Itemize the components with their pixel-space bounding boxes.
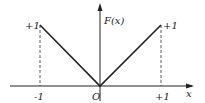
x-axis-label: x xyxy=(186,88,192,99)
y-axis-label: F(x) xyxy=(103,15,124,26)
tick-label-pos1: +1 xyxy=(155,91,170,102)
y-axis-arrow-icon xyxy=(98,3,103,11)
origin-label: O xyxy=(92,91,100,102)
right-peak-label: +1 xyxy=(163,20,178,31)
tick-label-neg1: -1 xyxy=(34,91,44,102)
chart-figure: +1 +1 F(x) -1 O +1 x xyxy=(0,0,205,103)
left-peak-label: +1 xyxy=(25,20,40,31)
